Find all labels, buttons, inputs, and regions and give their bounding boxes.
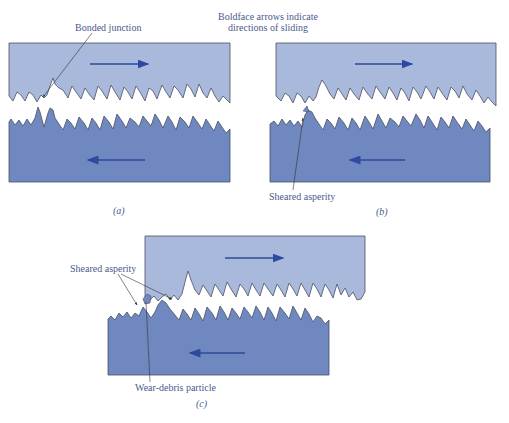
leader-line [118,274,137,305]
title-note-line2: directions of sliding [198,22,338,33]
label-wear-debris: Wear-debris particle [135,382,216,393]
panel-a [9,33,230,182]
caption-a: (a) [113,205,125,216]
lower-block-c [108,300,329,375]
label-sheared-asperity-b: Sheared asperity [269,191,335,202]
sliding-wear-diagram [0,0,509,423]
label-sheared-asperity-c: Sheared asperity [70,263,136,274]
lower-block-b [270,110,490,182]
caption-c: (c) [196,398,207,409]
sheared-asperity-fragment [303,106,309,112]
panel-b [270,43,496,190]
upper-block-c [145,236,365,301]
caption-b: (b) [376,206,388,217]
lower-block-a [9,107,230,182]
label-bonded-junction: Bonded junction [75,22,141,33]
panel-c [108,236,365,382]
wear-debris-particle [143,294,151,304]
title-note-line1: Boldface arrows indicate [198,11,338,22]
upper-block-a [9,43,230,103]
upper-block-b [276,43,496,106]
title-note: Boldface arrows indicate directions of s… [198,11,338,33]
